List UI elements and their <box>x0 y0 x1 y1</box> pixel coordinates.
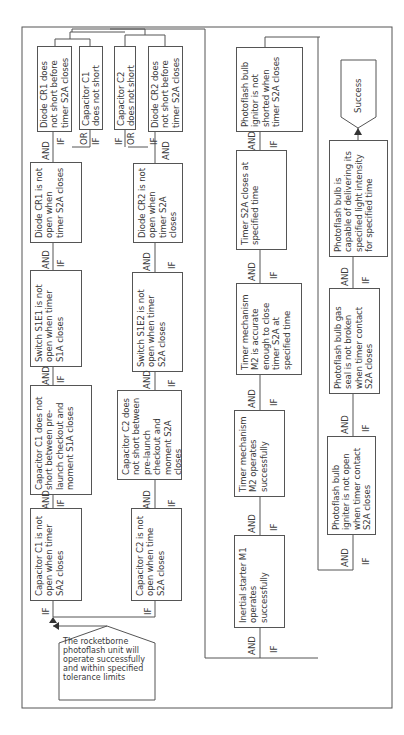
top-event: The rocketborne photoflash unit will ope… <box>60 635 154 697</box>
timer-closes-box: Timer S2A closes at specified time <box>236 150 287 250</box>
if-label: IF <box>150 138 159 145</box>
if-label: IF <box>57 260 66 267</box>
and-label: AND <box>143 252 152 271</box>
if-label: IF <box>270 524 279 531</box>
if-label: IF <box>42 608 51 615</box>
c2-short-box: Capacitor C2 does not short between pre-… <box>117 390 182 480</box>
if-label: IF <box>270 141 279 148</box>
inertial-starter-box: Inertial starter M1 operates successfull… <box>234 535 285 628</box>
and-label: AND <box>42 141 51 160</box>
and-label: AND <box>341 548 350 567</box>
or-label: OR <box>80 132 89 145</box>
and-label: AND <box>248 636 257 655</box>
and-label: AND <box>143 370 152 389</box>
c2-noshort-box: Capacitor C2 does not short <box>114 46 136 130</box>
if-label: IF <box>168 500 177 507</box>
if-label: IF <box>92 138 101 145</box>
s1e1-box: Switch S1E1 is not open when timer S1A c… <box>30 270 82 367</box>
cr2-short-box: Diode CR2 does not short before timer S2… <box>148 46 183 132</box>
if-label: IF <box>57 500 66 507</box>
and-label: AND <box>42 250 51 269</box>
ignitor-short-box: Photoflash bulb ignitor is not shorted w… <box>236 47 303 132</box>
c1-noshort-box: Capacitor C1 does not short <box>79 46 103 130</box>
if-label: IF <box>362 558 371 565</box>
capable-box: Photoflash bulb is capable of delivering… <box>329 140 388 257</box>
timer-accurate-box: Timer mechanism M2 is accurate enough to… <box>236 283 302 375</box>
and-label: AND <box>42 490 51 509</box>
c2-open-box: Capacitor C2 is not open when time S2A c… <box>131 508 182 601</box>
s1e2-box: Switch S1E2 is not open when timer S2A c… <box>132 272 183 372</box>
if-label: IF <box>270 399 279 406</box>
and-label: AND <box>143 490 152 509</box>
and-label: AND <box>341 415 350 434</box>
if-label: IF <box>168 262 177 269</box>
and-label: AND <box>42 366 51 385</box>
and-label: AND <box>248 131 257 150</box>
if-label: IF <box>270 646 279 653</box>
if-label: IF <box>362 425 371 432</box>
c1-short-box: Capacitor C1 does not short between pre-… <box>30 385 92 495</box>
gas-seal-box: Photoflash bulb gas seal is not broken w… <box>329 288 380 394</box>
if-label: IF <box>115 138 124 145</box>
if-label: IF <box>144 608 153 615</box>
cr2-open-box: Diode CR2 is not open when timer S2A clo… <box>133 163 183 243</box>
success-node: Success <box>354 78 363 113</box>
if-label: IF <box>57 376 66 383</box>
c1-open-box: Capacitor C1 is not open when timer SA2 … <box>30 508 82 601</box>
timer-operates-box: Timer mechanism M2 operates successfully <box>234 410 285 497</box>
if-label: IF <box>362 277 371 284</box>
fault-tree-diagram: The rocketborne photoflash unit will ope… <box>0 0 404 735</box>
if-label: IF <box>270 272 279 279</box>
and-label: AND <box>162 141 171 160</box>
or-label: OR <box>127 132 136 145</box>
if-label: IF <box>57 138 66 145</box>
and-label: AND <box>341 267 350 286</box>
cr1-open-box: Diode CR1 is not open when timer S2A clo… <box>30 162 82 243</box>
and-label: AND <box>248 262 257 281</box>
cr1-short-box: Diode CR1 does not short before timer S2… <box>37 46 72 132</box>
and-label: AND <box>248 514 257 533</box>
igniter-open-box: Photoflash bulb igniter is not open when… <box>327 436 376 535</box>
and-label: AND <box>248 389 257 408</box>
if-label: IF <box>168 380 177 387</box>
